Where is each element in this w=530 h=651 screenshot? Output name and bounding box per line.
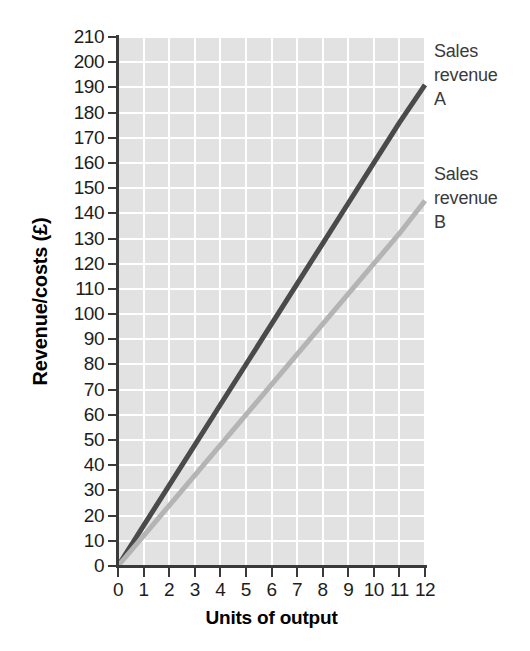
y-tick-mark — [108, 313, 117, 315]
y-tick-label: 130 — [46, 228, 104, 250]
x-tick-mark — [347, 567, 349, 577]
y-tick-mark — [108, 112, 117, 114]
y-tick-mark — [108, 515, 117, 517]
x-tick-mark — [296, 567, 298, 577]
x-tick-mark — [424, 567, 426, 577]
y-tick-label: 30 — [46, 479, 104, 501]
y-tick-label: 200 — [46, 51, 104, 73]
series-b-annotation: Sales revenue B — [434, 163, 528, 235]
y-tick-label: 20 — [46, 505, 104, 527]
x-tick-mark — [168, 567, 170, 577]
y-tick-label: 70 — [46, 379, 104, 401]
y-tick-label: 60 — [46, 404, 104, 426]
y-tick-mark — [108, 36, 117, 38]
plot-area — [118, 37, 425, 566]
x-tick-mark — [373, 567, 375, 577]
series-line-a — [118, 85, 425, 566]
y-tick-label: 10 — [46, 530, 104, 552]
y-tick-label: 170 — [46, 127, 104, 149]
x-tick-mark — [143, 567, 145, 577]
x-tick-mark — [322, 567, 324, 577]
x-tick-mark — [245, 567, 247, 577]
x-tick-mark — [194, 567, 196, 577]
y-tick-mark — [108, 187, 117, 189]
y-tick-mark — [108, 61, 117, 63]
series-lines — [118, 37, 425, 566]
y-tick-label: 190 — [46, 76, 104, 98]
y-tick-mark — [108, 86, 117, 88]
y-tick-mark — [108, 137, 117, 139]
revenue-costs-line-chart: Revenue/costs (£) 0102030405060708090100… — [0, 0, 530, 651]
x-tick-label: 12 — [408, 579, 442, 601]
y-tick-label: 210 — [46, 26, 104, 48]
y-axis-line — [116, 35, 119, 568]
y-tick-label: 100 — [46, 303, 104, 325]
y-tick-mark — [108, 464, 117, 466]
y-tick-mark — [108, 162, 117, 164]
y-tick-mark — [108, 238, 117, 240]
y-tick-label: 180 — [46, 102, 104, 124]
y-tick-label: 160 — [46, 152, 104, 174]
y-tick-mark — [108, 363, 117, 365]
y-tick-mark — [108, 389, 117, 391]
y-tick-mark — [108, 540, 117, 542]
y-tick-mark — [108, 565, 117, 567]
y-tick-label: 140 — [46, 202, 104, 224]
y-tick-label: 110 — [46, 278, 104, 300]
y-tick-label: 50 — [46, 429, 104, 451]
y-tick-mark — [108, 212, 117, 214]
y-tick-label: 40 — [46, 454, 104, 476]
y-tick-label: 90 — [46, 328, 104, 350]
y-tick-label: 0 — [46, 555, 104, 577]
series-line-b — [118, 201, 425, 566]
y-tick-mark — [108, 414, 117, 416]
y-tick-mark — [108, 489, 117, 491]
x-tick-mark — [398, 567, 400, 577]
series-a-annotation: Sales revenue A — [434, 40, 528, 112]
y-tick-label: 120 — [46, 253, 104, 275]
y-tick-mark — [108, 439, 117, 441]
y-tick-mark — [108, 338, 117, 340]
y-tick-mark — [108, 288, 117, 290]
y-tick-label: 80 — [46, 353, 104, 375]
x-axis-title: Units of output — [118, 607, 425, 629]
x-tick-mark — [219, 567, 221, 577]
y-tick-label: 150 — [46, 177, 104, 199]
x-tick-mark — [117, 567, 119, 577]
y-tick-mark — [108, 263, 117, 265]
x-tick-mark — [271, 567, 273, 577]
